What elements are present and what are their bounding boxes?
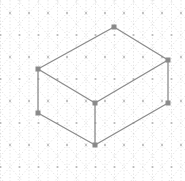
grid-dot [142,56,144,58]
grid-dot [18,166,20,168]
cuboid-vertex-top-left[interactable] [36,67,41,72]
grid-dot [37,34,39,36]
cuboid-edge-top-right-to-top-front[interactable] [95,60,168,103]
grid-dot [37,122,39,124]
grid-dot [85,56,87,58]
grid-dot [132,34,134,36]
grid-line-diagonal-left [0,7,185,181]
grid-dot [170,122,172,124]
grid-dot [142,12,144,14]
grid-dot [180,100,182,102]
grid-dot [161,144,163,146]
grid-dot [113,122,115,124]
grid-dot [9,12,11,14]
grid-dot [142,100,144,102]
grid-line-diagonal-left [0,95,185,181]
grid-dot [151,78,153,80]
grid-line-diagonal-left [0,0,185,136]
grid-dot [28,100,30,102]
grid-dot [0,166,2,168]
cuboid-edge-top-left-to-top-front[interactable] [38,69,95,103]
cuboid-vertex-layer [36,25,171,148]
grid-dot [104,144,106,146]
cuboid-vertex-top-right[interactable] [166,58,171,63]
grid-dot [75,166,77,168]
grid-dot [94,78,96,80]
grid-line-diagonal-right [0,0,185,181]
grid-line-diagonal-left [0,0,185,26]
grid-layer [0,0,185,181]
grid-dot [113,166,115,168]
grid-dot [151,34,153,36]
grid-line-diagonal-left [0,0,185,4]
grid-line-diagonal-right [0,0,185,41]
cuboid-vertex-bottom-front[interactable] [93,143,98,148]
grid-dot [66,100,68,102]
grid-dot [85,144,87,146]
grid-line-diagonal-left [0,0,185,158]
cuboid-vertex-top-back[interactable] [112,25,117,30]
grid-dot [104,56,106,58]
cuboid-edge-bottom-left-to-bottom-front[interactable] [38,113,95,145]
grid-dot [66,12,68,14]
grid-dot [0,34,2,36]
isometric-drawing-canvas[interactable] [0,0,185,181]
cuboid-edge-top-back-to-top-right[interactable] [114,27,168,60]
grid-dot [28,144,30,146]
grid-dot [123,12,125,14]
grid-line-diagonal-left [0,0,185,70]
grid-dot [28,56,30,58]
grid-line-diagonal-right [0,0,185,181]
grid-line-diagonal-left [0,0,185,114]
grid-dot [47,100,49,102]
cuboid-vertex-bottom-right[interactable] [166,101,171,106]
grid-dot [151,166,153,168]
grid-dot [47,56,49,58]
grid-dot [142,144,144,146]
grid-dot [66,144,68,146]
grid-line-diagonal-right [0,154,185,181]
grid-dot [180,56,182,58]
grid-line-diagonal-right [0,66,185,181]
grid-dot [85,100,87,102]
grid-dot [123,144,125,146]
grid-dot [170,78,172,80]
grid-dot [113,78,115,80]
grid-line-diagonal-left [0,117,185,181]
grid-dot [9,100,11,102]
grid-line-diagonal-left [0,0,185,181]
grid-line-diagonal-right [0,0,185,85]
grid-dot [180,12,182,14]
grid-dot [0,122,2,124]
grid-line-diagonal-right [0,132,185,181]
grid-line-diagonal-left [0,0,185,181]
grid-dot [18,34,20,36]
grid-dot [56,166,58,168]
grid-dot [85,12,87,14]
grid-dot [75,122,77,124]
grid-dot [75,34,77,36]
grid-line-diagonal-left [0,0,185,180]
grid-dot [94,34,96,36]
grid-dot [56,34,58,36]
grid-dot [104,12,106,14]
grid-dot [161,12,163,14]
grid-dot [132,166,134,168]
grid-line-diagonal-right [0,0,185,181]
grid-line-diagonal-right [0,0,185,181]
grid-dot [9,144,11,146]
grid-line-diagonal-left [0,73,185,181]
cuboid-vertex-bottom-left[interactable] [36,111,41,116]
grid-dot [0,78,2,80]
grid-dot [170,166,172,168]
cuboid-vertex-top-front[interactable] [93,101,98,106]
grid-line-diagonal-left [0,51,185,181]
grid-dot [47,144,49,146]
grid-line-diagonal-left [0,0,185,92]
grid-dot [75,78,77,80]
grid-line-diagonal-right [0,44,185,181]
grid-dot [151,122,153,124]
grid-line-diagonal-right [0,176,185,181]
grid-line-diagonal-left [0,0,185,48]
grid-dot [47,12,49,14]
